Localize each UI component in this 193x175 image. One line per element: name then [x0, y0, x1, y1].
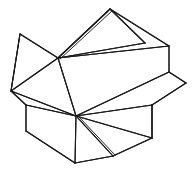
open-box-wireframe-figure	[0, 0, 193, 175]
drawing-canvas	[0, 0, 193, 175]
